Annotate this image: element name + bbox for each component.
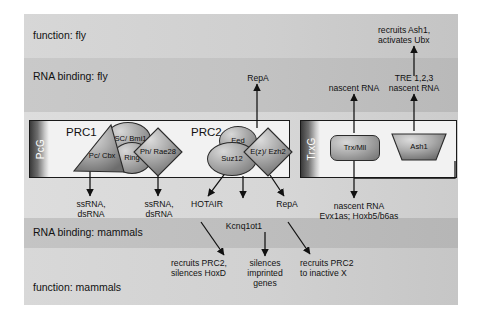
annotation-hotair: HOTAIR	[176, 199, 238, 209]
annotation-kcnq1ot1: Kcnq1ot1	[216, 221, 272, 231]
annotation-repa-function: recruits PRC2 to inactive X	[300, 258, 394, 278]
figure-canvas: function: fly RNA binding: fly RNA bindi…	[0, 0, 480, 319]
band-label-rna-binding-mammals: RNA binding: mammals	[33, 226, 143, 238]
annotation-prc1-rna-left: ssRNA, dsRNA	[64, 199, 118, 219]
subunit-ezh2: E(z)/ Ezh2	[243, 127, 293, 177]
subunit-ph-rae28-label: Ph/ Rae28	[140, 148, 176, 156]
annotation-ash1-tre: TRE 1,2,3 nascent RNA	[380, 73, 448, 93]
prc2-title: PRC2	[191, 126, 222, 138]
trxg-strip-label: TrxG	[305, 137, 316, 160]
subunit-ezh2-label: E(z)/ Ezh2	[250, 148, 285, 156]
annotation-trx-mammal-rna: nascent RNA Evx1as; Hoxb5/b6as	[306, 201, 412, 221]
subunit-pc-cbx: Pc/ Cbx	[73, 124, 125, 176]
trxg-side-strip: TrxG	[301, 121, 320, 177]
annotation-repa-up: RepA	[238, 73, 278, 83]
subunit-trx-mll-label: Trx/Mll	[344, 144, 367, 152]
annotation-ash1-function: recruits Ash1, activates Ubx	[378, 25, 452, 45]
band-label-function-fly: function: fly	[33, 29, 86, 41]
annotation-trx-nascent-rna: nascent RNA	[320, 83, 388, 93]
subunit-ph-rae28: Ph/ Rae28	[133, 127, 183, 177]
subunit-ash1-label: Ash1	[410, 143, 427, 151]
subunit-ash1: Ash1	[391, 133, 447, 161]
subunit-pc-cbx-label: Pc/ Cbx	[89, 152, 116, 160]
annotation-repa-down: RepA	[267, 199, 307, 209]
subunit-trx-mll: Trx/Mll	[330, 135, 380, 161]
band-label-rna-binding-fly: RNA binding: fly	[33, 70, 108, 82]
subunit-suz12-label: Suz12	[221, 155, 243, 163]
band-label-function-mammals: function: mammals	[33, 281, 121, 293]
annotation-kcnq-function: silences imprinted genes	[236, 258, 294, 288]
pcg-side-strip: PcG	[30, 121, 49, 177]
pcg-strip-label: PcG	[34, 139, 45, 159]
